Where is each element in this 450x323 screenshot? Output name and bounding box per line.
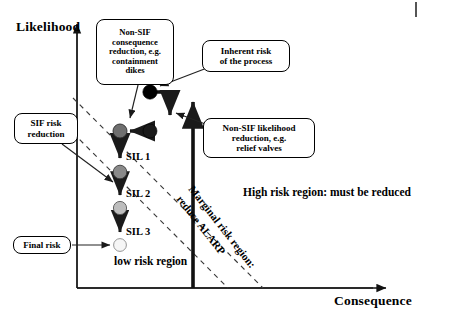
callout-non-sif-likelihood-line-1: Non-SIF likelihood [223, 123, 296, 133]
high-risk-region-label: High risk region: must be reduced [243, 186, 411, 198]
sil-3-label: SIL 3 [126, 226, 150, 237]
callout-non-sif-consequence-line-5: dikes [125, 66, 144, 76]
high-risk-line-1: High risk region: [243, 186, 327, 198]
callout-non-sif-consequence[interactable]: Non-SIF consequence reduction, e.g. cont… [96, 19, 174, 85]
callout-inherent-risk[interactable]: Inherent risk of the process [202, 40, 290, 72]
callout-final-risk[interactable]: Final risk [13, 236, 71, 254]
sil-2-label: SIL 2 [126, 188, 150, 199]
node-sil0 [113, 124, 127, 138]
y-axis-title: Likelihood [16, 20, 80, 35]
node-sil2 [113, 201, 126, 214]
callout-final-risk-line-1: Final risk [23, 240, 60, 250]
node-sil3-final [114, 239, 127, 252]
callout-sif-risk-line-1: SIF risk [31, 118, 62, 128]
callout-inherent-risk-line-2: of the process [220, 56, 272, 66]
high-risk-line-2: must be reduced [330, 186, 411, 198]
low-risk-region-label: low risk region [114, 255, 187, 267]
callout-sif-risk-line-2: reduction [28, 129, 65, 139]
callout-non-sif-likelihood[interactable]: Non-SIF likelihood reduction, e.g. relie… [203, 118, 315, 158]
leader-sif-risk [62, 144, 113, 182]
callout-sif-risk-reduction[interactable]: SIF risk reduction [14, 113, 78, 144]
callout-non-sif-likelihood-line-3: relief valves [236, 143, 282, 153]
callout-inherent-risk-line-1: Inherent risk [221, 46, 272, 56]
node-inherent-risk [143, 85, 157, 99]
callout-non-sif-likelihood-line-2: reduction, e.g. [232, 133, 286, 143]
diagram-canvas: Likelihood Consequence low risk region H… [0, 0, 450, 323]
sil-1-label: SIL 1 [126, 151, 150, 162]
node-post-consequence [143, 124, 157, 138]
x-axis-title: Consequence [334, 294, 412, 309]
page-corner-tick [415, 2, 417, 17]
node-sil1 [113, 165, 127, 179]
leader-non-sif-consequence [130, 81, 139, 118]
